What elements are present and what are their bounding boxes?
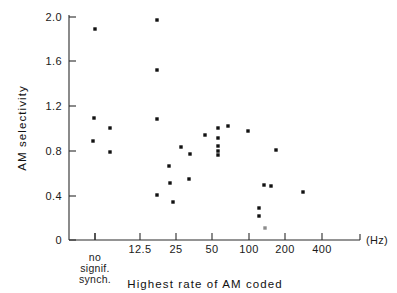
y-tick-label: 1.6 <box>46 55 63 67</box>
data-point <box>257 214 260 217</box>
plot-canvas: 2.01.61.20.80.40 12.52550100200400 no si… <box>0 0 397 293</box>
data-point <box>155 68 158 71</box>
scatter-plot-figure: 2.01.61.20.80.40 12.52550100200400 no si… <box>0 0 397 293</box>
data-point <box>93 27 96 30</box>
data-point <box>187 177 190 180</box>
y-axis-title: AM selectivity <box>16 85 28 171</box>
x-tick-label: 400 <box>312 243 332 255</box>
data-point <box>263 226 266 229</box>
data-point <box>108 150 111 153</box>
data-point <box>257 206 260 209</box>
data-point <box>155 18 158 21</box>
x-axis-title: Highest rate of AM coded <box>127 278 283 290</box>
x-axis-ticks: 12.52550100200400 <box>95 233 360 255</box>
y-tick-label: 0.8 <box>46 145 63 157</box>
data-point-group <box>91 18 304 229</box>
data-point <box>188 152 191 155</box>
data-point <box>216 126 219 129</box>
category-label-line-3: synch. <box>79 273 111 285</box>
data-point <box>226 124 229 127</box>
x-tick-label: 100 <box>239 243 259 255</box>
data-point <box>179 145 182 148</box>
x-tick-label: 25 <box>169 243 182 255</box>
x-axis-unit-label: (Hz) <box>366 234 388 246</box>
data-point <box>269 184 272 187</box>
data-point <box>155 193 158 196</box>
data-point <box>92 116 95 119</box>
x-tick-label: 12.5 <box>128 243 151 255</box>
data-point <box>168 181 171 184</box>
y-tick-label: 2.0 <box>46 11 63 23</box>
data-point <box>301 190 304 193</box>
data-point <box>167 164 170 167</box>
x-tick-label: 200 <box>275 243 295 255</box>
data-point <box>216 144 219 147</box>
axes-group <box>69 15 360 240</box>
data-point <box>262 183 265 186</box>
data-point <box>216 136 219 139</box>
y-tick-label: 1.2 <box>46 100 63 112</box>
y-tick-label: 0 <box>55 234 62 246</box>
x-axis-category-label: no signif. synch. <box>79 251 111 285</box>
data-point <box>246 129 249 132</box>
data-point <box>274 148 277 151</box>
data-point <box>91 139 94 142</box>
data-point <box>203 133 206 136</box>
data-point <box>155 117 158 120</box>
data-point <box>216 149 219 152</box>
x-tick-label: 50 <box>205 243 218 255</box>
data-point <box>171 200 174 203</box>
data-point <box>216 153 219 156</box>
data-point <box>108 126 111 129</box>
y-axis-ticks: 2.01.61.20.80.40 <box>46 11 77 246</box>
y-tick-label: 0.4 <box>46 190 63 202</box>
